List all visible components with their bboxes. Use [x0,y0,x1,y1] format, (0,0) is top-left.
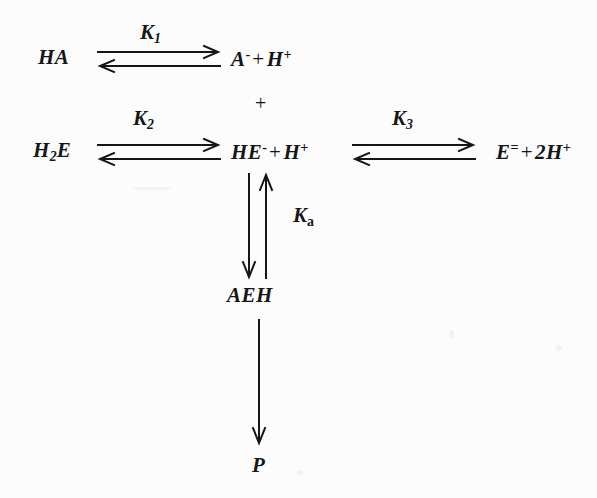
species-aeh: AEH [227,285,273,306]
species-p: P [252,455,265,476]
constant-k1: K1 [140,22,161,46]
scan-speckle [296,470,303,475]
scan-speckle [132,187,172,190]
operator-plus-row2-right: + [519,140,535,164]
species-he-minus: HE- [231,140,267,164]
species-h2e: H2E [33,140,71,164]
constant-k2-subscript: 2 [147,117,154,132]
operator-plus-vertical: + [255,93,266,113]
scan-speckle [449,330,454,339]
constant-k2-symbol: K [133,106,147,130]
constant-k3: K3 [392,108,413,132]
constant-k3-subscript: 3 [406,117,413,132]
species-a-minus: A- [231,47,250,71]
species-h2e-subscript: 2 [50,149,57,164]
species-e-dianion: E= [496,140,519,164]
equilibrium-arrow-k3 [353,139,475,165]
constant-k2: K2 [133,108,154,132]
species-p-label: P [252,453,265,477]
equilibrium-arrow-ka [241,174,275,278]
constant-ka-subscript: a [307,214,314,229]
species-e-dianion-plus-2h-plus: E=+2H+ [496,140,571,163]
constant-k1-symbol: K [140,20,154,44]
reaction-scheme-diagram: HA K1 A-+H+ + H2E K2 HE-+H+ K3 E [0,0,597,498]
equilibrium-arrow-k2 [98,139,220,165]
species-h2e-base: H [33,138,50,162]
constant-ka: Ka [293,205,314,229]
species-ha-label: HA [38,45,69,69]
species-a-minus-plus-h-plus: A-+H+ [231,47,292,70]
constant-k3-symbol: K [392,106,406,130]
constant-k1-subscript: 1 [154,31,161,46]
operator-plus-row2-center: + [267,140,283,164]
species-h2e-tail: E [57,138,72,162]
species-he-minus-plus-h-plus: HE-+H+ [231,140,308,163]
product-arrow-to-p [250,320,274,444]
species-h-plus-2: H+ [283,140,308,164]
species-aeh-label: AEH [227,283,273,307]
constant-ka-symbol: K [293,203,307,227]
species-h-plus-1: H+ [267,47,292,71]
operator-plus-row1: + [250,47,266,71]
species-two-h-plus: 2H+ [535,140,571,164]
equilibrium-arrow-k1 [98,46,220,72]
scan-speckle [556,345,562,351]
species-ha: HA [38,47,69,68]
